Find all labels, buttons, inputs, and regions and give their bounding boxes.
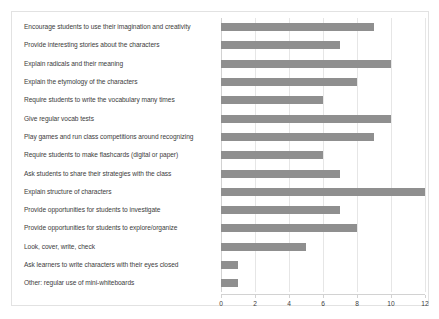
x-tick-label: 2 [253,300,257,307]
chart-row: Give regular vocab tests [12,110,428,128]
chart-row: Look, cover, write, check [12,238,428,256]
chart-frame: Encourage students to use their imaginat… [11,11,429,306]
category-label: Explain the etymology of the characters [24,78,220,85]
category-label: Provide interesting stories about the ch… [24,42,220,49]
bar [221,151,323,159]
bar [221,41,340,49]
category-label: Provide opportunities for students to ex… [24,225,220,232]
category-label: Other: regular use of mini-whiteboards [24,280,220,287]
chart-row: Explain radicals and their meaning [12,55,428,73]
chart-row: Require students to make flashcards (dig… [12,146,428,164]
x-tick-mark [357,295,358,298]
bar [221,78,357,86]
x-tick-label: 0 [219,300,223,307]
bar [221,96,323,104]
bar [221,188,425,196]
chart-row: Provide opportunities for students to in… [12,201,428,219]
chart-row: Require students to write the vocabulary… [12,91,428,109]
x-tick-label: 8 [355,300,359,307]
x-tick-label: 12 [421,300,428,307]
x-tick-mark [323,295,324,298]
plot-area: Encourage students to use their imaginat… [12,12,428,305]
category-label: Look, cover, write, check [24,243,220,250]
category-label: Play games and run class competitions ar… [24,133,220,140]
x-tick-mark [425,295,426,298]
bar [221,279,238,287]
category-label: Encourage students to use their imaginat… [24,24,220,31]
bar [221,224,357,232]
chart-row: Ask students to share their strategies w… [12,164,428,182]
chart-row: Provide interesting stories about the ch… [12,36,428,54]
chart-row: Play games and run class competitions ar… [12,128,428,146]
bar [221,60,391,68]
category-label: Explain radicals and their meaning [24,60,220,67]
x-tick-label: 10 [387,300,394,307]
chart-row: Encourage students to use their imaginat… [12,18,428,36]
category-label: Explain structure of characters [24,188,220,195]
chart-row: Ask learners to write characters with th… [12,256,428,274]
chart-row: Provide opportunities for students to ex… [12,219,428,237]
category-label: Ask learners to write characters with th… [24,261,220,268]
bar [221,170,340,178]
category-label: Provide opportunities for students to in… [24,207,220,214]
x-tick-mark [289,295,290,298]
x-tick-label: 6 [321,300,325,307]
category-label: Give regular vocab tests [24,115,220,122]
x-tick-label: 4 [287,300,291,307]
category-label: Require students to make flashcards (dig… [24,152,220,159]
bar [221,243,306,251]
bar [221,261,238,269]
x-tick-mark [221,295,222,298]
chart-row: Explain structure of characters [12,183,428,201]
category-label: Require students to write the vocabulary… [24,97,220,104]
bar [221,115,391,123]
bar [221,133,374,141]
x-tick-mark [255,295,256,298]
chart-row: Explain the etymology of the characters [12,73,428,91]
bar [221,23,374,31]
category-label: Ask students to share their strategies w… [24,170,220,177]
bar [221,206,340,214]
chart-row: Other: regular use of mini-whiteboards [12,274,428,292]
x-tick-mark [391,295,392,298]
